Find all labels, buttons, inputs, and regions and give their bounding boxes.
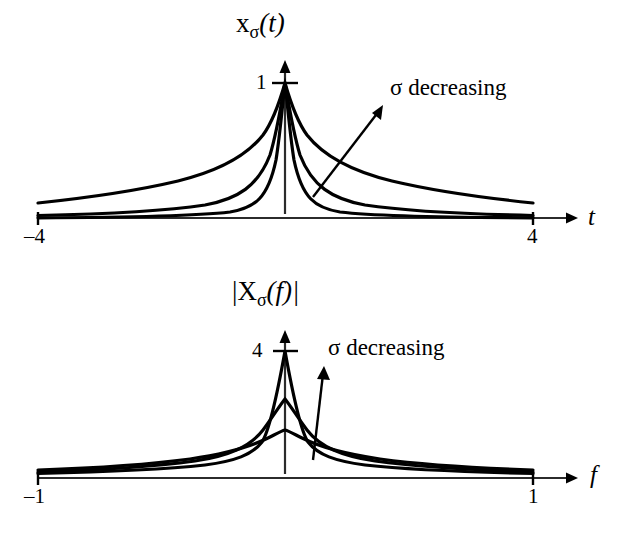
bottom-annotation-arrowhead bbox=[317, 366, 330, 380]
top-annotation-word: decreasing bbox=[408, 75, 506, 100]
figure-container: xσ(t) 1 –4 4 t σ decreasing |Xσ(f)| 4 –1… bbox=[0, 0, 627, 534]
top-x-axis-arrowhead bbox=[566, 213, 578, 224]
bottom-title-close: (f)| bbox=[267, 276, 300, 306]
bottom-xaxis-label: f bbox=[590, 462, 597, 487]
bottom-plot-title: |Xσ(f)| bbox=[232, 278, 300, 309]
bottom-y-axis-arrowhead bbox=[280, 330, 291, 343]
bottom-x-axis-arrowhead bbox=[566, 473, 578, 484]
top-ytick-label: 1 bbox=[256, 72, 267, 93]
bottom-panel bbox=[38, 330, 578, 485]
top-title-subscript: σ bbox=[250, 22, 260, 42]
bottom-title-open: |X bbox=[232, 276, 257, 306]
bottom-xtick-label-left: –1 bbox=[24, 486, 45, 507]
bottom-annotation-sigma: σ bbox=[328, 335, 340, 360]
top-xtick-label-left: –4 bbox=[24, 226, 45, 247]
bottom-xtick-label-right: 1 bbox=[528, 486, 539, 507]
top-plot-title: xσ(t) bbox=[236, 10, 285, 41]
top-xtick-label-right: 4 bbox=[527, 226, 538, 247]
bottom-ytick-label: 4 bbox=[252, 340, 263, 361]
top-title-suffix: (t) bbox=[259, 8, 284, 38]
top-annotation-arrow-shaft bbox=[313, 111, 379, 197]
bottom-annotation-label: σ decreasing bbox=[328, 336, 445, 359]
figure-svg bbox=[0, 0, 627, 534]
top-annotation-sigma: σ bbox=[390, 75, 402, 100]
bottom-annotation-word: decreasing bbox=[346, 335, 444, 360]
top-y-axis-arrowhead bbox=[280, 60, 291, 73]
top-xaxis-label: t bbox=[588, 204, 595, 229]
top-title-prefix: x bbox=[236, 8, 250, 38]
bottom-title-subscript: σ bbox=[257, 290, 267, 310]
top-annotation-label: σ decreasing bbox=[390, 76, 507, 99]
